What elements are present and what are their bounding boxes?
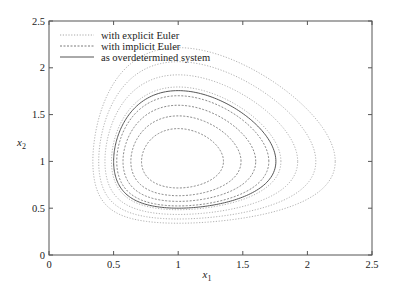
y-tick-label: 0.5	[32, 203, 45, 214]
x-tick-label: 0.5	[107, 259, 120, 270]
curves-layer	[93, 48, 335, 224]
y-tick-label: 1.5	[32, 109, 45, 120]
y-tick-label: 2	[40, 62, 45, 73]
y-axis-label-subscript: 2	[22, 142, 26, 151]
x-axis: 00.511.522.5	[46, 21, 378, 270]
y-tick-label: 2.5	[32, 16, 45, 27]
legend-label-overdetermined: as overdetermined system	[101, 52, 210, 63]
plot-frame	[49, 21, 372, 255]
x-axis-label: x1	[202, 268, 212, 283]
x-axis-label-subscript: 1	[207, 274, 211, 283]
series-1-loop-0	[117, 96, 269, 206]
x-tick-label: 1	[176, 259, 181, 270]
x-tick-label: 2.5	[365, 259, 378, 270]
y-axis-label: x2	[16, 136, 26, 151]
series-2-loop-0	[114, 91, 276, 209]
series-1-loop-2	[131, 116, 241, 196]
series-1-loop-3	[142, 129, 224, 188]
x-tick-label: 1.5	[236, 259, 249, 270]
x-tick-label: 0	[46, 259, 51, 270]
legend-label-explicit-euler: with explicit Euler	[101, 30, 180, 41]
phase-portrait-chart: 00.511.522.5 00.511.522.5 x1 x2 with exp…	[0, 0, 396, 294]
x-tick-label: 2	[305, 259, 310, 270]
legend: with explicit Euler with implicit Euler …	[60, 30, 210, 63]
y-tick-label: 1	[40, 156, 45, 167]
series-0-loop-2	[99, 62, 316, 219]
y-tick-label: 0	[40, 250, 45, 261]
legend-label-implicit-euler: with implicit Euler	[101, 41, 181, 52]
